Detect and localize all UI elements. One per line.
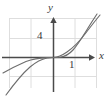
graph-figure: y x 4 1 xyxy=(0,0,109,97)
graph-plot-area xyxy=(0,0,109,97)
x-axis-label: x xyxy=(99,50,104,61)
y-axis-label: y xyxy=(48,2,53,13)
y-tick-label-4: 4 xyxy=(37,30,43,41)
x-tick-label-1: 1 xyxy=(69,59,75,70)
plot-background xyxy=(0,0,109,97)
